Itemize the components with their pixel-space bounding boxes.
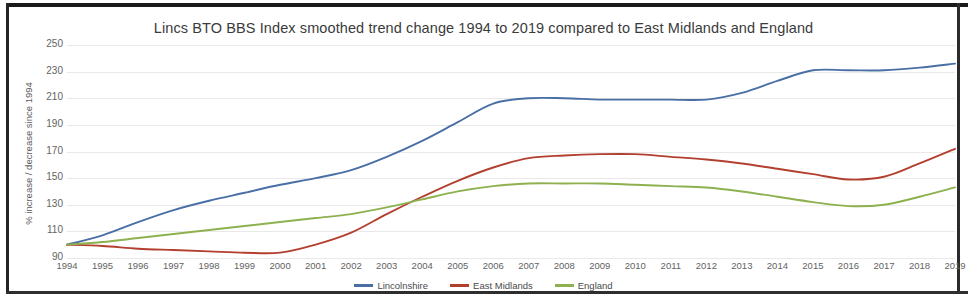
y-axis-tick-label: 170 [17, 145, 63, 156]
y-axis-tick-label: 250 [17, 38, 63, 49]
chart-container: Lincs BTO BBS Index smoothed trend chang… [10, 8, 957, 290]
legend-item-lincolnshire[interactable]: Lincolnshire [354, 280, 428, 291]
y-axis-tick-labels: 90110130150170190210230250 [10, 45, 63, 258]
figure-border-left [6, 3, 9, 294]
x-axis-tick-label: 2000 [270, 260, 291, 271]
series-line-england [67, 183, 955, 244]
legend-item-england[interactable]: England [555, 280, 613, 291]
gridline [67, 258, 955, 259]
x-axis-tick-label: 1994 [56, 260, 77, 271]
figure-border-top [6, 3, 968, 7]
x-axis-tick-label: 1998 [199, 260, 220, 271]
chart-title: Lincs BTO BBS Index smoothed trend chang… [10, 20, 957, 36]
series-line-east-midlands [67, 149, 955, 253]
x-axis-tick-label: 2013 [731, 260, 752, 271]
x-axis-tick-label: 1999 [234, 260, 255, 271]
x-axis-tick-label: 2005 [447, 260, 468, 271]
x-axis-tick-label: 2008 [554, 260, 575, 271]
y-axis-tick-label: 150 [17, 171, 63, 182]
y-axis-tick-label: 210 [17, 91, 63, 102]
series-lines [67, 45, 955, 258]
x-axis-tick-label: 2019 [944, 260, 965, 271]
x-axis-tick-label: 2010 [625, 260, 646, 271]
y-axis-tick-label: 110 [17, 224, 63, 235]
x-axis-tick-label: 1995 [92, 260, 113, 271]
legend-swatch [450, 284, 469, 287]
x-axis-tick-labels: 1994199519961997199819992000200120022003… [67, 260, 955, 278]
chart-screenshot: Lincs BTO BBS Index smoothed trend chang… [0, 0, 974, 299]
chart-legend: LincolnshireEast MidlandsEngland [10, 280, 957, 291]
x-axis-tick-label: 2011 [661, 260, 681, 271]
x-axis-tick-label: 2006 [483, 260, 504, 271]
plot-area [67, 45, 955, 258]
x-axis-tick-label: 2014 [767, 260, 788, 271]
figure-border-bottom [6, 291, 968, 294]
x-axis-tick-label: 2018 [909, 260, 930, 271]
legend-label: East Midlands [473, 280, 533, 291]
y-axis-tick-label: 130 [17, 198, 63, 209]
x-axis-tick-label: 2015 [802, 260, 823, 271]
legend-label: England [578, 280, 613, 291]
x-axis-tick-label: 2016 [838, 260, 859, 271]
figure-border-right [957, 3, 960, 294]
x-axis-tick-label: 2012 [696, 260, 717, 271]
x-axis-tick-label: 1996 [127, 260, 148, 271]
x-axis-tick-label: 2017 [873, 260, 894, 271]
legend-swatch [354, 284, 373, 287]
x-axis-tick-label: 2009 [589, 260, 610, 271]
x-axis-tick-label: 2003 [376, 260, 397, 271]
x-axis-tick-label: 2007 [518, 260, 539, 271]
x-axis-tick-label: 2002 [341, 260, 362, 271]
x-axis-tick-label: 2004 [412, 260, 433, 271]
legend-label: Lincolnshire [377, 280, 428, 291]
y-axis-tick-label: 230 [17, 65, 63, 76]
series-line-lincolnshire [67, 64, 955, 245]
legend-item-east-midlands[interactable]: East Midlands [450, 280, 533, 291]
y-axis-tick-label: 190 [17, 118, 63, 129]
x-axis-tick-label: 1997 [163, 260, 184, 271]
x-axis-tick-label: 2001 [305, 260, 326, 271]
legend-swatch [555, 284, 574, 287]
